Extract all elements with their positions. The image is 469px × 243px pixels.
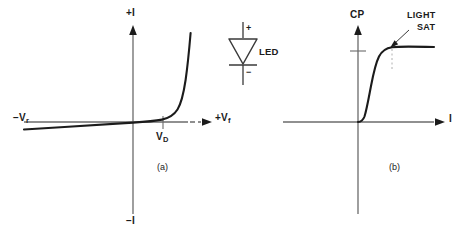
panel-b-annotation-line2: SAT [417, 23, 435, 32]
panel-b-annotation-leader [394, 30, 409, 44]
led-characteristics-figure: +I −I −Vr +Vf VD (a) + − LED CP [0, 0, 469, 243]
panel-b-y-axis-label: CP [350, 10, 364, 20]
panel-b-y-axis-arrowhead [354, 25, 362, 35]
panel-b-x-axis-arrowhead [435, 118, 445, 126]
panel-b-x-axis-label: I [449, 114, 452, 124]
panel-b-caption: (b) [389, 163, 400, 172]
panel-b-cp-curve [358, 47, 434, 122]
panel-b-graphics [0, 0, 469, 243]
panel-b-annotation-line1: LIGHT [407, 11, 436, 20]
